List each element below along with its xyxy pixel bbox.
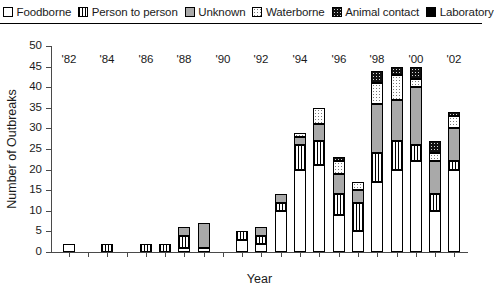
bar-1999[interactable] bbox=[391, 67, 403, 252]
bar-1994[interactable] bbox=[294, 133, 306, 252]
y-axis-tick bbox=[46, 149, 51, 150]
y-axis-tick bbox=[46, 46, 51, 47]
legend-item-label: Animal contact bbox=[345, 6, 419, 18]
bar-segment-foodborne bbox=[313, 165, 325, 252]
y-axis-tick bbox=[46, 231, 51, 232]
bar-segment-animal bbox=[371, 71, 383, 83]
bar-segment-unknown bbox=[333, 174, 345, 195]
bar-2000[interactable] bbox=[410, 67, 422, 252]
bar-segment-waterborne bbox=[371, 83, 383, 104]
y-axis-tick bbox=[46, 67, 51, 68]
legend-item-person[interactable]: Person to person bbox=[78, 6, 177, 18]
legend-item-laboratory[interactable]: Laboratory bbox=[426, 6, 493, 18]
bar-segment-foodborne bbox=[391, 170, 403, 252]
x-axis-tick-label: '02 bbox=[434, 53, 474, 65]
bar-segment-animal bbox=[391, 67, 403, 75]
y-axis-tick bbox=[46, 211, 51, 212]
legend-item-label: Foodborne bbox=[17, 6, 72, 18]
x-axis-tick bbox=[435, 252, 436, 257]
bar-segment-unknown bbox=[429, 161, 441, 194]
bar-1989[interactable] bbox=[198, 223, 210, 252]
y-axis-tick-label: 45 bbox=[12, 61, 42, 73]
x-axis-tick bbox=[397, 252, 398, 257]
black-square-icon bbox=[426, 7, 436, 17]
x-axis-tick-label: '92 bbox=[241, 53, 281, 65]
y-axis-tick-label: 50 bbox=[12, 40, 42, 52]
y-axis-tick-label: 40 bbox=[12, 81, 42, 93]
y-axis-tick-label: 15 bbox=[12, 184, 42, 196]
legend-item-label: Unknown bbox=[198, 6, 245, 18]
legend-item-foodborne[interactable]: Foodborne bbox=[3, 6, 71, 18]
bar-segment-animal bbox=[429, 141, 441, 153]
x-axis-tick-label: '88 bbox=[164, 53, 204, 65]
bar-1984[interactable] bbox=[101, 244, 113, 252]
y-axis-tick-label: 25 bbox=[12, 143, 42, 155]
y-axis-tick-label: 30 bbox=[12, 122, 42, 134]
x-axis-tick-label: '98 bbox=[357, 53, 397, 65]
x-axis-line bbox=[51, 252, 468, 253]
white-square-icon bbox=[3, 7, 13, 17]
x-axis-tick bbox=[281, 252, 282, 257]
bar-segment-unknown bbox=[178, 227, 190, 235]
bar-segment-foodborne bbox=[275, 211, 287, 252]
bar-segment-waterborne bbox=[448, 116, 460, 128]
legend-item-waterborne[interactable]: Waterborne bbox=[252, 6, 324, 18]
x-axis-tick-label: '00 bbox=[396, 53, 436, 65]
bar-segment-person bbox=[448, 161, 460, 169]
bar-segment-waterborne bbox=[333, 161, 345, 173]
x-axis-tick-label: '82 bbox=[49, 53, 89, 65]
bar-segment-waterborne bbox=[391, 75, 403, 100]
dark-dotted-square-icon bbox=[332, 7, 342, 17]
bar-segment-person bbox=[159, 244, 171, 252]
bar-segment-waterborne bbox=[352, 182, 364, 190]
bar-1995[interactable] bbox=[313, 108, 325, 252]
bar-1997[interactable] bbox=[352, 182, 364, 252]
plot-area: Number of Outbreaks Year 051015202530354… bbox=[51, 46, 468, 252]
bar-segment-person bbox=[101, 244, 113, 252]
bar-segment-person bbox=[391, 141, 403, 170]
x-axis-tick bbox=[165, 252, 166, 257]
bar-segment-unknown bbox=[391, 100, 403, 141]
x-axis-tick bbox=[88, 252, 89, 257]
legend-item-animal[interactable]: Animal contact bbox=[332, 6, 420, 18]
y-axis-tick bbox=[46, 108, 51, 109]
x-axis-tick bbox=[319, 252, 320, 257]
legend-item-label: Waterborne bbox=[266, 6, 325, 18]
bar-segment-foodborne bbox=[410, 161, 422, 252]
y-axis-tick-label: 20 bbox=[12, 164, 42, 176]
legend-item-unknown[interactable]: Unknown bbox=[185, 6, 246, 18]
bar-1992[interactable] bbox=[255, 227, 267, 252]
bar-1988[interactable] bbox=[178, 227, 190, 252]
bar-1993[interactable] bbox=[275, 194, 287, 252]
bar-segment-unknown bbox=[198, 223, 210, 248]
bar-segment-unknown bbox=[371, 104, 383, 153]
legend-divider bbox=[0, 23, 482, 24]
y-axis-tick-label: 35 bbox=[12, 102, 42, 114]
y-axis-tick bbox=[46, 128, 51, 129]
bar-2002[interactable] bbox=[448, 112, 460, 252]
x-axis-tick bbox=[300, 252, 301, 257]
bar-2001[interactable] bbox=[429, 141, 441, 252]
bar-segment-animal bbox=[333, 157, 345, 161]
bar-segment-unknown bbox=[352, 190, 364, 202]
bar-1982[interactable] bbox=[63, 244, 75, 252]
bar-1998[interactable] bbox=[371, 71, 383, 252]
bar-segment-person bbox=[178, 236, 190, 248]
bar-segment-unknown bbox=[448, 128, 460, 161]
y-axis-tick-label: 5 bbox=[12, 225, 42, 237]
bar-segment-foodborne bbox=[352, 231, 364, 252]
bar-segment-animal bbox=[448, 112, 460, 116]
bar-1996[interactable] bbox=[333, 157, 345, 252]
x-axis-tick bbox=[107, 252, 108, 257]
bar-segment-foodborne bbox=[333, 215, 345, 252]
bar-segment-person bbox=[352, 203, 364, 232]
bar-1987[interactable] bbox=[159, 244, 171, 252]
bar-segment-foodborne bbox=[63, 244, 75, 252]
bar-1991[interactable] bbox=[236, 231, 248, 252]
bar-segment-foodborne bbox=[294, 170, 306, 252]
gray-square-icon bbox=[185, 7, 195, 17]
x-axis-tick-label: '84 bbox=[87, 53, 127, 65]
legend-item-label: Person to person bbox=[92, 6, 178, 18]
x-axis-tick bbox=[339, 252, 340, 257]
bar-1986[interactable] bbox=[140, 244, 152, 252]
